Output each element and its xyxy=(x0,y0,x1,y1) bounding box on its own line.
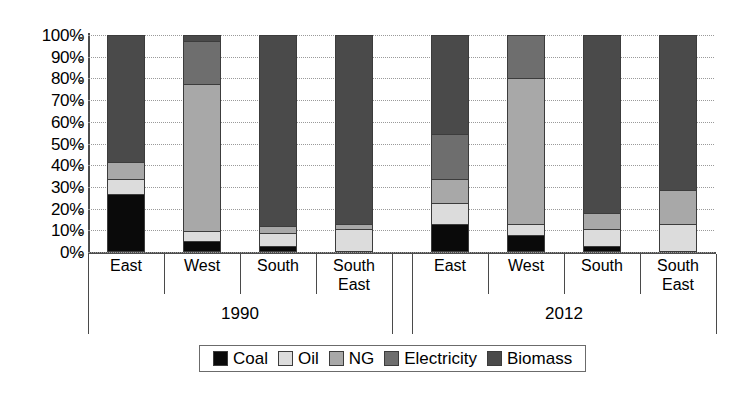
y-axis-tick xyxy=(78,59,84,61)
bar-segment-ng xyxy=(432,180,468,204)
legend-item-oil[interactable]: Oil xyxy=(278,350,319,367)
y-axis-tick xyxy=(78,146,84,148)
bar-segment-ng xyxy=(184,85,220,231)
category-label-band: EastWestSouthSouthEastEastWestSouthSouth… xyxy=(88,254,716,300)
legend-label: Oil xyxy=(298,350,319,367)
x-axis-category-label: West xyxy=(164,256,240,275)
bar-segment-ng xyxy=(108,163,144,180)
bar-segment-coal xyxy=(508,236,544,251)
category-separator xyxy=(316,254,317,294)
stacked-bar xyxy=(259,35,297,252)
bar-segment-oil xyxy=(508,225,544,236)
bar-segment-biomass xyxy=(432,36,468,135)
x-axis-category-label: East xyxy=(88,256,164,275)
y-axis-tick-label: 50% xyxy=(51,136,84,153)
legend-label: Coal xyxy=(233,350,268,367)
legend-item-electricity[interactable]: Electricity xyxy=(384,350,477,367)
x-axis-category-label: SouthEast xyxy=(316,256,392,294)
bar-segment-coal xyxy=(432,225,468,251)
bar-segment-biomass xyxy=(108,36,144,163)
category-label-line1: East xyxy=(412,256,488,275)
category-label-line1: South xyxy=(564,256,640,275)
bar-series-container xyxy=(88,35,714,252)
bar-segment-coal xyxy=(184,242,220,251)
legend-swatch-icon xyxy=(278,351,293,366)
chart-legend: CoalOilNGElectricityBiomass xyxy=(199,345,586,372)
bar-segment-electricity xyxy=(184,42,220,85)
y-axis-tick-label: 20% xyxy=(51,201,84,218)
stacked-bar xyxy=(583,35,621,252)
stacked-bar xyxy=(183,35,221,252)
category-label-line2: East xyxy=(640,275,716,294)
stacked-bar xyxy=(507,35,545,252)
legend-swatch-icon xyxy=(487,351,502,366)
y-axis-tick-label: 90% xyxy=(51,49,84,66)
category-label-line1: West xyxy=(164,256,240,275)
legend-item-ng[interactable]: NG xyxy=(329,350,375,367)
y-axis-tick xyxy=(78,232,84,234)
bar-segment-electricity xyxy=(432,135,468,180)
category-label-line1: South xyxy=(640,256,716,275)
y-axis-tick xyxy=(78,254,84,256)
bar-segment-coal xyxy=(260,247,296,251)
stacked-bar xyxy=(335,35,373,252)
y-axis-tick-label: 40% xyxy=(51,157,84,174)
y-axis-tick xyxy=(78,124,84,126)
bar-segment-biomass xyxy=(260,36,296,227)
bar-segment-oil xyxy=(184,232,220,243)
y-axis-tick-label: 60% xyxy=(51,114,84,131)
legend-label: NG xyxy=(349,350,375,367)
legend-swatch-icon xyxy=(384,351,399,366)
category-separator xyxy=(488,254,489,294)
bar-segment-biomass xyxy=(584,36,620,214)
bar-segment-ng xyxy=(508,79,544,225)
y-axis-tick-label: 30% xyxy=(51,179,84,196)
category-separator xyxy=(240,254,241,294)
x-axis-group-label: 1990 xyxy=(90,304,390,324)
y-axis-tick xyxy=(78,37,84,39)
category-separator xyxy=(564,254,565,294)
category-separator xyxy=(164,254,165,294)
bar-segment-coal xyxy=(108,195,144,251)
y-axis-tick xyxy=(78,102,84,104)
legend-swatch-icon xyxy=(213,351,228,366)
legend-label: Electricity xyxy=(404,350,477,367)
category-label-line1: South xyxy=(316,256,392,275)
bar-segment-oil xyxy=(108,180,144,195)
category-label-line2: East xyxy=(316,275,392,294)
y-axis-tick xyxy=(78,167,84,169)
category-separator xyxy=(716,254,717,334)
y-axis-tick xyxy=(78,189,84,191)
group-label-band: 19902012 xyxy=(88,300,716,334)
y-axis-tick-label: 10% xyxy=(51,222,84,239)
bar-segment-oil xyxy=(660,225,696,251)
bar-segment-oil xyxy=(260,234,296,247)
x-axis-category-label: South xyxy=(564,256,640,275)
plot-area xyxy=(88,35,714,252)
stacked-bar xyxy=(107,35,145,252)
legend-item-coal[interactable]: Coal xyxy=(213,350,268,367)
bar-segment-coal xyxy=(584,247,620,251)
category-separator xyxy=(640,254,641,294)
y-axis-labels: 100%90%80%70%60%50%40%30%20%10%0% xyxy=(0,35,84,252)
category-label-line1: East xyxy=(88,256,164,275)
bar-segment-oil xyxy=(584,230,620,247)
stacked-bar xyxy=(431,35,469,252)
bar-segment-oil xyxy=(432,204,468,226)
y-axis-tick-label: 70% xyxy=(51,92,84,109)
bar-segment-ng xyxy=(660,191,696,225)
bar-segment-ng xyxy=(584,214,620,229)
y-axis-tick xyxy=(78,211,84,213)
y-axis-tick-label: 0% xyxy=(60,244,84,261)
legend-item-biomass[interactable]: Biomass xyxy=(487,350,572,367)
bar-segment-electricity xyxy=(508,36,544,79)
x-axis-category-label: South xyxy=(240,256,316,275)
category-label-line1: West xyxy=(488,256,564,275)
legend-swatch-icon xyxy=(329,351,344,366)
x-axis-category-label: East xyxy=(412,256,488,275)
y-axis-tick-label: 80% xyxy=(51,70,84,87)
y-axis-tick-label: 100% xyxy=(42,27,84,44)
y-axis-tick xyxy=(78,80,84,82)
stacked-bar-chart: 100%90%80%70%60%50%40%30%20%10%0% EastWe… xyxy=(0,0,742,393)
category-label-line1: South xyxy=(240,256,316,275)
